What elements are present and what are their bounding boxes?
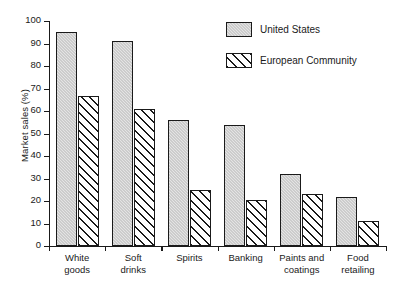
y-axis-line (49, 21, 50, 246)
bar-us (224, 125, 245, 247)
bar-ec (78, 96, 99, 246)
y-axis-tick-label: 20 (30, 194, 41, 205)
legend-item-european-community: European Community (226, 49, 357, 71)
x-axis-tick (274, 246, 275, 251)
x-axis-tick (218, 246, 219, 251)
x-axis-category-label: Banking (214, 252, 278, 264)
legend-label-united-states: United States (260, 24, 320, 35)
x-axis-category-label: Food retailing (326, 252, 390, 276)
y-axis-tick: 30 (44, 179, 49, 180)
y-axis-tick-label: 50 (30, 127, 41, 138)
bar-us (280, 174, 301, 246)
y-axis-tick-label: 30 (30, 172, 41, 183)
y-axis-tick-label: 60 (30, 104, 41, 115)
bar-chart: Market sales (%) 0102030405060708090100 … (0, 0, 398, 291)
y-axis-tick: 90 (44, 44, 49, 45)
bar-us (112, 41, 133, 246)
y-axis-tick: 70 (44, 89, 49, 90)
y-axis-tick-label: 10 (30, 217, 41, 228)
chart-legend: United States European Community (226, 18, 357, 80)
y-axis-tick-label: 80 (30, 59, 41, 70)
y-axis-tick: 60 (44, 111, 49, 112)
bar-us (168, 120, 189, 246)
y-axis-tick: 10 (44, 224, 49, 225)
y-axis-tick: 20 (44, 201, 49, 202)
y-axis-tick: 80 (44, 66, 49, 67)
y-axis-tick-label: 70 (30, 82, 41, 93)
y-axis-title: Market sales (%) (19, 56, 30, 196)
bar-ec (302, 194, 323, 246)
legend-swatch-icon-united-states (226, 22, 252, 37)
bar-ec (134, 109, 155, 246)
x-axis-tick (161, 246, 162, 251)
legend-item-united-states: United States (226, 18, 357, 40)
x-axis-category-label: Paints and coatings (270, 252, 334, 276)
x-axis-category-label: Spirits (157, 252, 221, 264)
y-axis-tick-label: 0 (36, 239, 41, 250)
bar-ec (190, 190, 211, 246)
bar-ec (358, 221, 379, 246)
x-axis-tick (105, 246, 106, 251)
y-axis-tick-label: 100 (25, 14, 41, 25)
y-axis-tick-label: 90 (30, 37, 41, 48)
y-axis-tick-label: 40 (30, 149, 41, 160)
x-axis-tick (49, 246, 50, 251)
legend-label-european-community: European Community (260, 55, 357, 66)
x-axis-tick (330, 246, 331, 251)
bar-us (56, 32, 77, 246)
bar-us (336, 197, 357, 247)
y-axis-tick: 100 (44, 21, 49, 22)
y-axis-tick: 50 (44, 134, 49, 135)
x-axis-tick (386, 246, 387, 251)
y-axis-tick: 40 (44, 156, 49, 157)
legend-swatch-icon-european-community (226, 53, 252, 68)
bar-ec (246, 200, 267, 246)
x-axis-category-label: White goods (45, 252, 109, 276)
x-axis-category-label: Soft drinks (101, 252, 165, 276)
